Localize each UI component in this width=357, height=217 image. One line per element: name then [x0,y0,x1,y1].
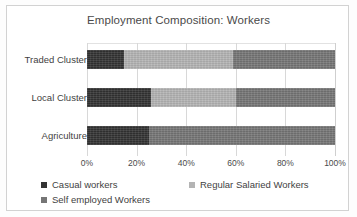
chart-frame: Employment Composition: Workers Traded C… [6,5,349,211]
legend-label: Casual workers [52,179,117,190]
bar-segment [87,88,151,107]
legend-swatch-icon [189,182,195,188]
legend-swatch-icon [41,182,47,188]
chart-legend: Casual workersRegular Salaried WorkersSe… [41,179,341,209]
legend-item[interactable]: Self employed Workers [41,194,150,205]
bar-segment [149,126,335,145]
y-axis-category-labels: Traded ClusterLocal ClusterAgriculture [0,43,87,156]
bar-row [87,88,335,107]
gridline-100 [335,43,336,156]
bar-segment [236,88,335,107]
bar-segment [151,88,235,107]
y-axis-label-1: Traded Cluster [0,54,87,65]
chart-title: Employment Composition: Workers [7,14,350,26]
chart-screenshot: Employment Composition: Workers Traded C… [0,0,357,217]
bar-row [87,126,335,145]
bar-segment [233,50,335,69]
x-tick-label-60pct: 60% [227,158,244,168]
bar-row [87,50,335,69]
x-tick-label-20pct: 20% [128,158,145,168]
x-tick-label-40pct: 40% [178,158,195,168]
x-tick-label-80pct: 80% [277,158,294,168]
x-tick-label-100pct: 100% [324,158,346,168]
y-axis-label-3: Agriculture [0,130,87,141]
bar-segment [87,50,124,69]
legend-label: Regular Salaried Workers [200,179,309,190]
legend-item[interactable]: Casual workers [41,179,117,190]
x-tick-label-0pct: 0% [81,158,93,168]
bar-segment [124,50,233,69]
y-axis-label-2: Local Cluster [0,92,87,103]
bar-segment [87,126,149,145]
legend-label: Self employed Workers [52,194,150,205]
x-axis-tick-labels: 0%20%40%60%80%100% [87,158,335,172]
legend-swatch-icon [41,197,47,203]
legend-item[interactable]: Regular Salaried Workers [189,179,309,190]
plot-area [87,43,335,156]
